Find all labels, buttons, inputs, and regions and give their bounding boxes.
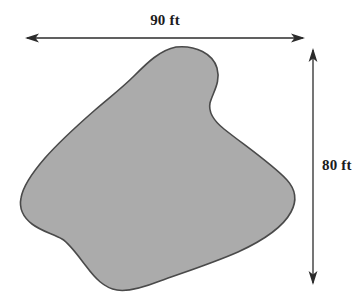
figure-graphics xyxy=(0,0,359,303)
width-dimension-label: 90 ft xyxy=(0,13,330,28)
figure-canvas: 90 ft 80 ft xyxy=(0,0,359,303)
irregular-region-shape xyxy=(20,47,294,291)
height-dimension-label: 80 ft xyxy=(322,158,352,173)
height-dimension-arrow xyxy=(309,48,318,285)
width-dimension-arrow xyxy=(25,34,305,43)
